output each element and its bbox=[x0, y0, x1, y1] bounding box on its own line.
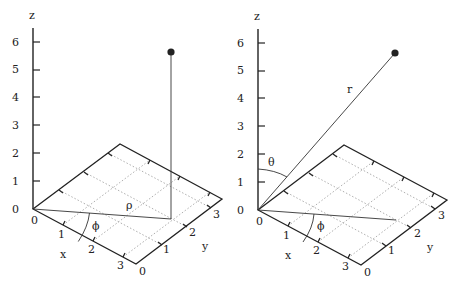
rho-label: ρ bbox=[126, 199, 132, 212]
x-axis-label: x bbox=[60, 248, 67, 261]
phi-label: ϕ bbox=[92, 220, 100, 233]
theta-label: θ bbox=[268, 156, 275, 169]
y-tick-label: 2 bbox=[414, 227, 421, 240]
r-line bbox=[258, 53, 395, 210]
y-tick-label: 3 bbox=[438, 209, 445, 222]
x-tick-label: 0 bbox=[31, 214, 38, 227]
x-tick-label: 1 bbox=[58, 228, 65, 241]
rho-line bbox=[33, 209, 171, 219]
right-panel: z 6 5 4 3 2 1 0 bbox=[237, 10, 447, 279]
point-marker bbox=[167, 48, 174, 55]
z-axis-label: z bbox=[254, 10, 260, 23]
y-tick-label: 0 bbox=[364, 266, 371, 279]
z-ticks bbox=[258, 43, 265, 182]
x-tick-label: 3 bbox=[117, 259, 124, 272]
z-tick-label: 5 bbox=[12, 63, 19, 76]
plane-edge-ticks bbox=[284, 154, 435, 258]
left-panel: z 6 5 4 3 2 1 0 bbox=[12, 9, 222, 278]
x-tick-label: 0 bbox=[256, 215, 263, 228]
x-tick-label: 3 bbox=[342, 260, 349, 273]
y-tick-label: 1 bbox=[388, 244, 395, 257]
x-tick-label: 1 bbox=[283, 229, 290, 242]
z-ticks bbox=[33, 42, 40, 181]
phi-arc bbox=[303, 214, 314, 242]
z-tick-label: 2 bbox=[237, 148, 244, 161]
x-axis-label: x bbox=[285, 249, 292, 262]
r-label: r bbox=[347, 83, 353, 96]
z-tick-label: 0 bbox=[12, 203, 19, 216]
z-tick-label: 4 bbox=[12, 91, 19, 104]
projection-line bbox=[258, 210, 396, 220]
z-tick-label: 3 bbox=[12, 119, 19, 132]
z-tick-label: 1 bbox=[12, 175, 19, 188]
phi-arc bbox=[78, 213, 89, 242]
phi-label: ϕ bbox=[317, 220, 325, 233]
x-tick-label: 2 bbox=[313, 244, 320, 257]
z-tick-label: 6 bbox=[237, 37, 244, 50]
point-marker bbox=[391, 49, 398, 56]
y-tick-label: 3 bbox=[213, 208, 220, 221]
z-tick-label: 3 bbox=[237, 120, 244, 133]
z-tick-label: 6 bbox=[12, 36, 19, 49]
y-tick-label: 2 bbox=[189, 226, 196, 239]
z-tick-label: 5 bbox=[237, 64, 244, 77]
x-tick-label: 2 bbox=[88, 243, 95, 256]
xy-grid bbox=[59, 153, 211, 257]
plane-edge-ticks bbox=[59, 153, 211, 257]
y-tick-label: 0 bbox=[139, 265, 146, 278]
coordinate-diagram: z 6 5 4 3 2 1 0 bbox=[0, 0, 457, 283]
z-tick-label: 4 bbox=[237, 92, 244, 105]
xy-grid bbox=[284, 154, 435, 258]
y-tick-label: 1 bbox=[163, 243, 170, 256]
z-tick-label: 0 bbox=[237, 204, 244, 217]
z-tick-label: 2 bbox=[12, 147, 19, 160]
y-axis-label: y bbox=[426, 241, 434, 254]
theta-arc bbox=[258, 169, 287, 177]
z-tick-label: 1 bbox=[237, 176, 244, 189]
y-axis-label: y bbox=[201, 240, 209, 253]
z-axis-label: z bbox=[29, 9, 35, 22]
